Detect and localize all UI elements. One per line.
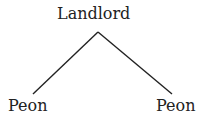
root-node-label: Landlord [57,5,130,23]
edge-left [33,32,98,94]
edge-right [98,32,172,94]
left-child-label: Peon [8,97,47,115]
right-child-label: Peon [156,97,195,115]
